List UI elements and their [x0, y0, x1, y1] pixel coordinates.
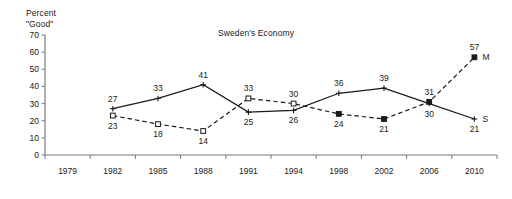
data-point-label: 18 [153, 129, 163, 139]
data-point-label: 23 [108, 121, 118, 131]
data-label-group: 273341252636393021231814333024213157 [108, 42, 479, 146]
x-axis-label: 2006 [420, 166, 439, 176]
y-tick-label: 70 [30, 30, 40, 40]
chart-container: Percent "Good" Sweden's Economy 01020304… [0, 0, 512, 199]
data-point-marker [110, 113, 115, 118]
y-tick-label: 50 [30, 64, 40, 74]
series-end-label-M: M [482, 52, 489, 62]
data-point-label: 24 [334, 119, 344, 129]
data-point-label: 33 [153, 83, 163, 93]
x-axis-label: 1979 [58, 166, 77, 176]
data-point-label: 33 [244, 83, 254, 93]
x-axis-label: 1985 [149, 166, 168, 176]
y-tick-label: 40 [30, 81, 40, 91]
x-axis-label: 2002 [375, 166, 394, 176]
x-axis-label: 1982 [103, 166, 122, 176]
data-point-label: 27 [108, 94, 118, 104]
y-tick-label: 20 [30, 116, 40, 126]
data-point-label: 14 [198, 136, 208, 146]
data-point-marker [472, 55, 477, 60]
data-point-marker [382, 117, 387, 122]
data-point-label: 31 [424, 87, 434, 97]
data-point-marker [291, 101, 296, 106]
data-point-label: 41 [198, 70, 208, 80]
y-tick-label: 60 [30, 47, 40, 57]
y-tick-label: 10 [30, 133, 40, 143]
data-point-label: 21 [470, 124, 480, 134]
data-point-label: 36 [334, 78, 344, 88]
chart-plot-area: 010203040506070 197919821985198819911994… [0, 0, 512, 199]
x-axis-label: 1991 [239, 166, 258, 176]
series-end-label-S: S [482, 114, 488, 124]
y-axis-tick-group: 010203040506070 [30, 30, 45, 160]
data-point-marker [201, 129, 206, 134]
series-end-label-group: SM [482, 52, 489, 124]
x-axis-label: 1988 [194, 166, 213, 176]
data-point-label: 25 [244, 117, 254, 127]
x-axis-label-group: 1979198219851988199119941998200220062010 [58, 166, 484, 176]
data-point-label: 30 [289, 89, 299, 99]
data-point-marker [427, 99, 432, 104]
data-point-marker [336, 111, 341, 116]
data-point-marker [156, 122, 161, 127]
data-point-label: 30 [424, 109, 434, 119]
data-point-label: 39 [379, 73, 389, 83]
data-point-label: 21 [379, 124, 389, 134]
data-point-label: 57 [470, 42, 480, 52]
x-axis-label: 2010 [465, 166, 484, 176]
data-point-marker [246, 96, 251, 101]
data-point-label: 26 [289, 115, 299, 125]
x-axis-label: 1998 [329, 166, 348, 176]
y-tick-label: 0 [34, 150, 39, 160]
x-axis-label: 1994 [284, 166, 303, 176]
y-tick-label: 30 [30, 99, 40, 109]
